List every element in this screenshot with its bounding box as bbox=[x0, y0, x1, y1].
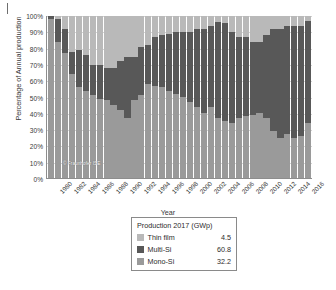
legend-title: Production 2017 (GWp) bbox=[137, 221, 231, 230]
bar-segment-multi-si bbox=[305, 21, 311, 123]
bar-segment-thin-film bbox=[173, 16, 179, 32]
bar-segment-thin-film bbox=[236, 16, 242, 37]
bar-segment-multi-si bbox=[284, 26, 290, 135]
legend-row: Multi-Si60.8 bbox=[137, 245, 231, 254]
bar-1990 bbox=[117, 16, 123, 178]
bar-segment-thin-film bbox=[298, 16, 304, 26]
bar-segment-mono-si bbox=[69, 74, 75, 178]
bar-segment-multi-si bbox=[62, 29, 68, 53]
bar-segment-mono-si bbox=[159, 87, 165, 178]
bar-1992 bbox=[131, 16, 137, 178]
bar-1999 bbox=[180, 16, 186, 178]
bar-segment-multi-si bbox=[201, 29, 207, 113]
bar-segment-multi-si bbox=[145, 45, 151, 84]
bar-segment-thin-film bbox=[76, 16, 82, 50]
bar-segment-mono-si bbox=[131, 100, 137, 178]
bar-segment-mono-si bbox=[90, 95, 96, 178]
x-tick-label: 1980 bbox=[58, 180, 73, 195]
bar-2015 bbox=[291, 16, 297, 178]
y-tick-label: 10% bbox=[30, 159, 43, 166]
bar-segment-mono-si bbox=[152, 86, 158, 178]
bar-segment-multi-si bbox=[187, 32, 193, 102]
bar-segment-thin-film bbox=[69, 16, 75, 52]
x-tick-label: 2010 bbox=[268, 180, 283, 195]
bar-segment-mono-si bbox=[201, 113, 207, 178]
plot-area: © Fraunhofer ISE bbox=[46, 16, 312, 179]
bar-segment-thin-film bbox=[201, 16, 207, 29]
bar-segment-mono-si bbox=[110, 105, 116, 178]
bar-segment-mono-si bbox=[76, 87, 82, 178]
bar-segment-thin-film bbox=[90, 16, 96, 65]
bar-2001 bbox=[194, 16, 200, 178]
bar-segment-multi-si bbox=[110, 68, 116, 105]
x-tick-label: 1986 bbox=[100, 180, 115, 195]
bar-1996 bbox=[159, 16, 165, 178]
bar-segment-thin-film bbox=[124, 16, 130, 57]
bar-segment-multi-si bbox=[270, 29, 276, 131]
bar-segment-mono-si bbox=[250, 115, 256, 178]
x-tick-label: 1994 bbox=[156, 180, 171, 195]
x-tick-label: 1992 bbox=[142, 180, 157, 195]
bar-segment-multi-si bbox=[104, 68, 110, 100]
x-axis-tick-labels: 1980198219841986198819901992199419961998… bbox=[46, 180, 312, 206]
bar-segment-thin-film bbox=[284, 16, 290, 26]
bar-segment-mono-si bbox=[256, 113, 262, 178]
bar-1989 bbox=[110, 16, 116, 178]
bar-1985 bbox=[83, 16, 89, 178]
bar-segment-multi-si bbox=[291, 26, 297, 138]
bar-segment-mono-si bbox=[263, 118, 269, 178]
bar-segment-multi-si bbox=[298, 26, 304, 136]
legend-swatch-thin-film bbox=[137, 234, 144, 241]
bar-segment-multi-si bbox=[131, 57, 137, 101]
legend-value: 4.5 bbox=[211, 233, 231, 242]
bar-segment-multi-si bbox=[55, 19, 61, 42]
bar-segment-multi-si bbox=[69, 52, 75, 75]
bar-segment-multi-si bbox=[250, 42, 256, 115]
legend-swatch-multi-si bbox=[137, 246, 144, 253]
bar-2003 bbox=[208, 16, 214, 178]
bar-segment-multi-si bbox=[277, 29, 283, 138]
x-tick-label: 2006 bbox=[240, 180, 255, 195]
bar-segment-mono-si bbox=[298, 136, 304, 178]
bar-segment-multi-si bbox=[263, 35, 269, 118]
bar-2009 bbox=[250, 16, 256, 178]
bar-segment-thin-film bbox=[208, 16, 214, 26]
bar-2006 bbox=[229, 16, 235, 178]
bar-segment-multi-si bbox=[256, 42, 262, 113]
bar-segment-mono-si bbox=[138, 95, 144, 178]
x-tick-label: 1990 bbox=[128, 180, 143, 195]
bar-segment-thin-film bbox=[180, 16, 186, 32]
bar-segment-thin-film bbox=[277, 16, 283, 29]
bar-1983 bbox=[69, 16, 75, 178]
bar-segment-mono-si bbox=[208, 107, 214, 178]
bar-1997 bbox=[166, 16, 172, 178]
bar-segment-multi-si bbox=[243, 37, 249, 116]
bar-segment-multi-si bbox=[76, 50, 82, 87]
bar-segment-thin-film bbox=[159, 16, 165, 35]
bar-1980 bbox=[48, 16, 54, 178]
bar-segment-multi-si bbox=[90, 65, 96, 96]
bar-segment-thin-film bbox=[131, 16, 137, 57]
bar-segment-thin-film bbox=[145, 16, 151, 45]
legend-row: Mono-Si32.2 bbox=[137, 257, 231, 266]
bar-segment-mono-si bbox=[145, 84, 151, 178]
bar-segment-mono-si bbox=[270, 131, 276, 178]
x-tick-label: 1984 bbox=[86, 180, 101, 195]
bar-segment-multi-si bbox=[229, 32, 235, 123]
legend-label: Multi-Si bbox=[148, 245, 212, 254]
bar-segment-multi-si bbox=[194, 29, 200, 107]
legend-label: Mono-Si bbox=[148, 257, 212, 266]
bar-segment-thin-film bbox=[166, 16, 172, 34]
bar-segment-mono-si bbox=[277, 138, 283, 179]
bar-segment-mono-si bbox=[180, 97, 186, 178]
bar-segment-mono-si bbox=[62, 53, 68, 178]
bar-segment-multi-si bbox=[117, 61, 123, 110]
bar-2011 bbox=[263, 16, 269, 178]
bar-segment-multi-si bbox=[236, 37, 242, 118]
bar-segment-mono-si bbox=[104, 100, 110, 178]
bar-2017 bbox=[305, 16, 311, 178]
bar-1988 bbox=[104, 16, 110, 178]
bar-segment-thin-film bbox=[256, 16, 262, 42]
bar-segment-mono-si bbox=[229, 123, 235, 178]
bar-segment-multi-si bbox=[83, 55, 89, 91]
